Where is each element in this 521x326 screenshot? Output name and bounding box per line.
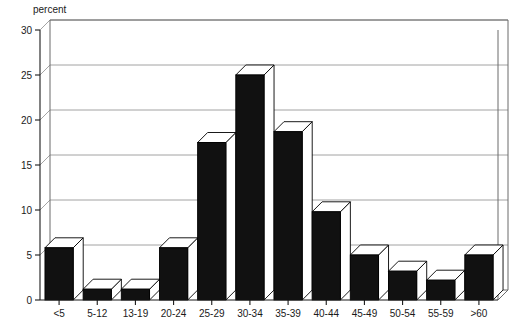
x-tick-label-20-24: 20-24 — [161, 308, 187, 319]
bar-30-34 — [236, 65, 274, 300]
bar-front-face — [159, 248, 187, 300]
bar-chart: 051015202530 <55-1213-1920-2425-2930-343… — [0, 0, 521, 326]
x-tick-label-35-39: 35-39 — [275, 308, 301, 319]
gridline-connector-10 — [40, 200, 50, 210]
x-tick-label-25-29: 25-29 — [199, 308, 225, 319]
bar-front-face — [350, 255, 378, 300]
bar-40-44 — [312, 202, 350, 300]
bar-front-face — [388, 271, 416, 300]
bars-group — [45, 65, 503, 300]
bar-13-19 — [121, 279, 159, 300]
y-tick-label-0: 0 — [26, 295, 32, 306]
x-tick-label-45-49: 45-49 — [352, 308, 378, 319]
y-tick-label-20: 20 — [21, 115, 33, 126]
y-tick-label-10: 10 — [21, 205, 33, 216]
bar->60 — [465, 245, 503, 300]
bar-front-face — [45, 248, 73, 300]
bar-front-face — [427, 280, 455, 300]
bar-front-face — [121, 289, 149, 300]
chart-canvas: 051015202530 <55-1213-1920-2425-2930-343… — [0, 0, 521, 326]
y-tick-label-15: 15 — [21, 160, 33, 171]
gridline-connector-25 — [40, 65, 50, 75]
y-tick-label-5: 5 — [26, 250, 32, 261]
gridline-connector-15 — [40, 155, 50, 165]
x-tick-label-50-54: 50-54 — [390, 308, 416, 319]
bar-front-face — [198, 143, 226, 301]
bar-5-12 — [83, 279, 121, 300]
bar-side-face — [340, 202, 350, 300]
bar-45-49 — [350, 245, 388, 300]
bar-20-24 — [159, 238, 197, 300]
bar-side-face — [73, 238, 83, 300]
bar-25-29 — [198, 133, 236, 301]
bar-55-59 — [427, 270, 465, 300]
x-tick-label-40-44: 40-44 — [313, 308, 339, 319]
x-axis-ticks: <55-1213-1920-2425-2930-3435-3940-4445-4… — [53, 300, 487, 319]
x-tick-label-13-19: 13-19 — [123, 308, 149, 319]
bar-50-54 — [388, 261, 426, 300]
x-tick-label-<5: <5 — [53, 308, 65, 319]
y-tick-label-25: 25 — [21, 70, 33, 81]
bar-front-face — [274, 132, 302, 300]
x-tick-label-55-59: 55-59 — [428, 308, 454, 319]
bar-front-face — [465, 255, 493, 300]
x-tick-label->60: >60 — [470, 308, 487, 319]
x-tick-label-5-12: 5-12 — [87, 308, 107, 319]
bar-side-face — [264, 65, 274, 300]
bar-side-face — [302, 122, 312, 300]
bar-front-face — [312, 212, 340, 300]
bar-front-face — [236, 75, 264, 300]
y-axis-label: percent — [33, 4, 67, 15]
gridline-connector-20 — [40, 110, 50, 120]
bar-side-face — [188, 238, 198, 300]
y-tick-label-30: 30 — [21, 25, 33, 36]
y-axis-ticks: 051015202530 — [21, 25, 40, 306]
bar-<5 — [45, 238, 83, 300]
bar-front-face — [83, 289, 111, 300]
gridline-connector-30 — [40, 20, 50, 30]
bar-35-39 — [274, 122, 312, 300]
bar-side-face — [226, 133, 236, 301]
x-tick-label-30-34: 30-34 — [237, 308, 263, 319]
